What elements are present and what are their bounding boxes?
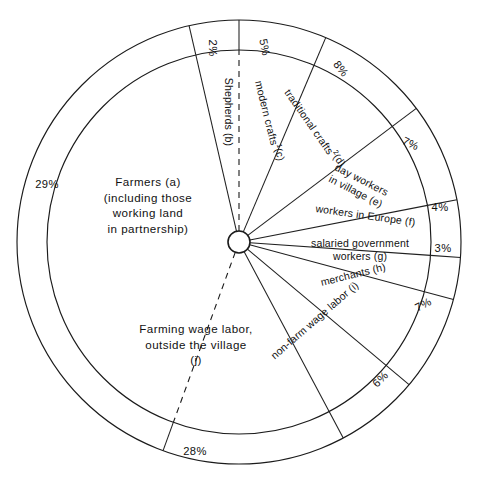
pct-label-f: 4% bbox=[432, 201, 449, 213]
ring-tick-g bbox=[431, 255, 461, 257]
sector-label-d: traditional crafts2(d) bbox=[282, 85, 348, 171]
pie-chart-figure: Farmers (a)(including thoseworking landi… bbox=[0, 0, 478, 495]
pct-label-a: 29% bbox=[35, 178, 58, 190]
sector-label-a: Farmers (a)(including thoseworking landi… bbox=[104, 175, 192, 235]
ring-tick-i bbox=[386, 365, 409, 384]
sector-label-j: Farming wage labor,outside the village(j… bbox=[139, 322, 253, 366]
sector-label-c: modern crafts1(c) bbox=[253, 79, 288, 163]
center-hub-circle bbox=[228, 231, 250, 253]
ring-tick-marks bbox=[163, 20, 460, 451]
sector-label-g: salaried governmentworkers (g) bbox=[311, 237, 409, 262]
sector-label-e: day workersin village (e) bbox=[327, 161, 391, 210]
ring-tick-e bbox=[392, 108, 416, 126]
pie-chart-svg: Farmers (a)(including thoseworking landi… bbox=[0, 0, 478, 495]
ring-tick-d bbox=[314, 38, 326, 66]
sector-label-i: non-farm wage labor (i) bbox=[268, 279, 360, 362]
pct-label-j: 28% bbox=[183, 445, 206, 457]
pct-label-g: 3% bbox=[435, 242, 452, 254]
sector-name-labels: Farmers (a)(including thoseworking landi… bbox=[104, 78, 416, 366]
ring-tick-j bbox=[329, 412, 343, 438]
pct-label-e: 7% bbox=[401, 134, 421, 152]
ring-tick-b bbox=[189, 26, 196, 55]
pct-label-b: 2% bbox=[207, 40, 219, 57]
sector-label-b: Shepherds (b) bbox=[223, 78, 235, 147]
pct-label-h: 7% bbox=[413, 295, 433, 313]
sector-divider-j bbox=[244, 252, 329, 412]
pct-label-i: 6% bbox=[370, 369, 390, 389]
pct-label-c: 5% bbox=[257, 38, 272, 57]
ring-tick-a bbox=[163, 422, 173, 450]
